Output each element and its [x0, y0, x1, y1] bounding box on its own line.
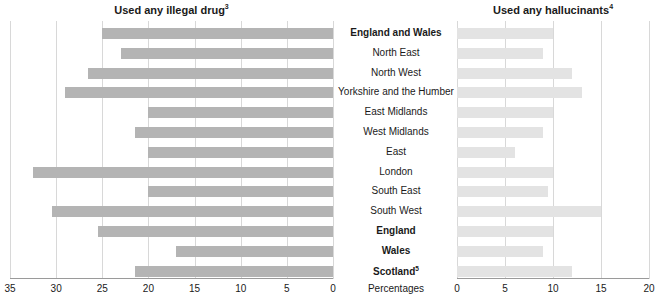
bar-left-england	[98, 226, 333, 237]
panel-title-right: Used any hallucinants4	[457, 3, 649, 16]
axis-tick-right-20: 20	[643, 283, 654, 294]
axis-line-left	[10, 278, 333, 279]
bar-left-east	[148, 147, 333, 158]
category-label-text: South West	[370, 205, 422, 216]
axis-tick-left-10: 10	[235, 283, 246, 294]
category-label-text: England and Wales	[350, 27, 441, 38]
axis-tick-left-15: 15	[189, 283, 200, 294]
chart-figure: Used any illegal drug3 Used any hallucin…	[0, 0, 658, 300]
category-label-text: West Midlands	[363, 126, 428, 137]
bar-left-west-midlands	[135, 127, 333, 138]
category-label-text: Wales	[382, 245, 411, 256]
category-label-text: England	[376, 225, 415, 236]
bar-right-north-west	[457, 68, 572, 79]
axis-tick-right-10: 10	[547, 283, 558, 294]
axis-tick-left-5: 5	[284, 283, 290, 294]
category-label-text: East Midlands	[365, 106, 428, 117]
bar-left-south-east	[148, 186, 333, 197]
gridline-right-15	[601, 21, 602, 279]
bar-right-east	[457, 147, 515, 158]
category-label-wales: Wales	[336, 245, 456, 256]
category-label-text: North East	[372, 47, 419, 58]
bar-left-london	[33, 167, 333, 178]
bar-left-scotland	[135, 266, 333, 277]
axis-tick-right-5: 5	[502, 283, 508, 294]
axis-tick-left-30: 30	[51, 283, 62, 294]
bar-left-wales	[176, 246, 333, 257]
axis-tick-left-25: 25	[97, 283, 108, 294]
bar-left-england-and-wales	[102, 28, 333, 39]
bar-right-east-midlands	[457, 107, 553, 118]
category-label-east-midlands: East Midlands	[336, 106, 456, 117]
category-label-text: South East	[372, 185, 421, 196]
gridline-right-10	[553, 21, 554, 279]
gridline-right-20	[649, 21, 650, 279]
bar-right-south-west	[457, 206, 601, 217]
category-label-london: London	[336, 166, 456, 177]
panel-title-right-footnote: 4	[609, 3, 613, 10]
category-label-text: Yorkshire and the Humber	[338, 86, 454, 97]
category-label-south-west: South West	[336, 205, 456, 216]
axis-tick-right-15: 15	[595, 283, 606, 294]
category-label-text: East	[386, 146, 406, 157]
bar-right-wales	[457, 246, 543, 257]
category-label-north-west: North West	[336, 67, 456, 78]
axis-tick-left-20: 20	[143, 283, 154, 294]
bar-right-yorkshire-and-the-humber	[457, 87, 582, 98]
axis-tick-left-35: 35	[4, 283, 15, 294]
category-label-text: London	[379, 166, 412, 177]
axis-tick-left-0: 0	[330, 283, 336, 294]
gridline-left-25	[102, 21, 103, 279]
plot-area-right-hallucinants	[457, 21, 649, 279]
bar-right-london	[457, 167, 553, 178]
bar-left-north-west	[88, 68, 333, 79]
bar-left-yorkshire-and-the-humber	[65, 87, 333, 98]
bar-right-scotland	[457, 266, 572, 277]
bar-right-england-and-wales	[457, 28, 553, 39]
category-label-column: England and WalesNorth EastNorth WestYor…	[336, 21, 456, 279]
gridline-left-30	[56, 21, 57, 279]
bar-right-south-east	[457, 186, 548, 197]
category-label-text: Scotland	[373, 266, 415, 277]
panel-title-left-footnote: 3	[225, 3, 229, 10]
category-label-south-east: South East	[336, 185, 456, 196]
category-label-east: East	[336, 146, 456, 157]
bar-right-england	[457, 226, 553, 237]
category-label-footnote: 5	[415, 265, 419, 272]
axis-caption-percentages: Percentages	[336, 283, 456, 294]
category-label-west-midlands: West Midlands	[336, 126, 456, 137]
bar-right-north-east	[457, 48, 543, 59]
panel-title-left: Used any illegal drug3	[10, 3, 333, 16]
plot-area-left-illegal-drug	[10, 21, 333, 279]
axis-line-right	[457, 278, 649, 279]
category-label-text: North West	[371, 67, 421, 78]
category-label-scotland: Scotland5	[336, 265, 456, 277]
category-label-england-and-wales: England and Wales	[336, 27, 456, 38]
bar-right-west-midlands	[457, 127, 543, 138]
gridline-left-35	[10, 21, 11, 279]
gridline-left-0	[333, 21, 334, 279]
bar-left-north-east	[121, 48, 333, 59]
axis-tick-right-0: 0	[454, 283, 460, 294]
category-label-england: England	[336, 225, 456, 236]
panel-title-right-text: Used any hallucinants	[493, 4, 609, 16]
panel-title-left-text: Used any illegal drug	[114, 4, 225, 16]
bar-left-east-midlands	[148, 107, 333, 118]
category-label-north-east: North East	[336, 47, 456, 58]
bar-left-south-west	[52, 206, 333, 217]
category-label-yorkshire-and-the-humber: Yorkshire and the Humber	[336, 86, 456, 97]
